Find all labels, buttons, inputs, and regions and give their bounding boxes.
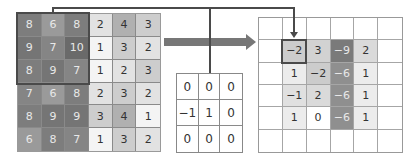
matrix-cell: −6 [331, 107, 355, 129]
matrix-cell: 1 [354, 63, 378, 85]
matrix-cell: 2 [354, 40, 378, 62]
right-arrow-icon [164, 38, 246, 46]
matrix-cell [259, 63, 283, 85]
matrix-cell: 1 [283, 63, 307, 85]
matrix-cell [259, 130, 283, 152]
matrix-cell: 2 [136, 83, 160, 106]
matrix-cell: 6 [42, 83, 66, 106]
matrix-cell [259, 18, 283, 40]
matrix-cell: 9 [65, 105, 89, 128]
matrix-cell: 7 [65, 128, 89, 151]
right-arrow-head-icon [246, 34, 256, 50]
matrix-cell: 2 [307, 85, 331, 107]
connector-down-to-kernel [209, 7, 211, 73]
down-arrow-icon [290, 32, 298, 38]
matrix-cell: 2 [136, 37, 160, 60]
matrix-cell: 1 [89, 128, 113, 151]
matrix-cell: 0 [199, 74, 221, 100]
matrix-cell: 0 [177, 126, 199, 152]
matrix-cell: 0 [220, 74, 242, 100]
matrix-cell [378, 40, 402, 62]
matrix-cell: 4 [113, 105, 137, 128]
matrix-cell: −9 [331, 40, 355, 62]
matrix-cell [378, 85, 402, 107]
matrix-cell: 3 [113, 37, 137, 60]
matrix-cell: 7 [18, 83, 42, 106]
matrix-cell: 0 [220, 126, 242, 152]
matrix-cell [378, 63, 402, 85]
matrix-cell: 9 [42, 105, 66, 128]
matrix-cell: 1 [89, 60, 113, 83]
matrix-cell [283, 130, 307, 152]
matrix-cell: 1 [199, 100, 221, 126]
matrix-cell: −6 [331, 85, 355, 107]
matrix-cell: 8 [18, 105, 42, 128]
matrix-cell: −2 [307, 63, 331, 85]
matrix-cell: 3 [113, 128, 137, 151]
matrix-cell [259, 107, 283, 129]
receptive-field-highlight [16, 12, 90, 85]
output-matrix: −23−921−2−61−12−6110−61 [258, 17, 403, 153]
matrix-cell: 2 [136, 128, 160, 151]
matrix-cell: 1 [136, 105, 160, 128]
matrix-cell [378, 18, 402, 40]
connector-top-horizontal [52, 7, 294, 9]
matrix-cell: 1 [89, 37, 113, 60]
matrix-cell: 0 [220, 100, 242, 126]
matrix-cell [259, 85, 283, 107]
matrix-cell: 0 [177, 74, 199, 100]
matrix-cell: 8 [42, 128, 66, 151]
output-cell-highlight [281, 39, 307, 64]
matrix-cell: 2 [89, 14, 113, 37]
connector-down-to-output [293, 7, 295, 33]
matrix-cell [331, 130, 355, 152]
matrix-cell: 3 [113, 83, 137, 106]
matrix-cell: 3 [89, 105, 113, 128]
matrix-cell: −6 [331, 63, 355, 85]
matrix-cell [354, 130, 378, 152]
matrix-cell [307, 18, 331, 40]
matrix-cell: 0 [307, 107, 331, 129]
matrix-cell: 2 [89, 83, 113, 106]
matrix-cell [378, 107, 402, 129]
matrix-cell: 1 [354, 107, 378, 129]
matrix-cell: 3 [307, 40, 331, 62]
matrix-cell: −1 [177, 100, 199, 126]
matrix-cell: 4 [113, 14, 137, 37]
matrix-cell: 2 [113, 60, 137, 83]
matrix-cell [378, 130, 402, 152]
matrix-cell [259, 40, 283, 62]
matrix-cell: 1 [354, 85, 378, 107]
matrix-cell: 6 [18, 128, 42, 151]
matrix-cell: 0 [199, 126, 221, 152]
matrix-cell [331, 18, 355, 40]
matrix-cell: 1 [283, 107, 307, 129]
matrix-cell [307, 130, 331, 152]
matrix-cell [354, 18, 378, 40]
matrix-cell: −1 [283, 85, 307, 107]
matrix-cell: 3 [136, 60, 160, 83]
matrix-cell: 8 [65, 83, 89, 106]
kernel-matrix: 000−110000 [176, 73, 243, 153]
matrix-cell: 3 [136, 14, 160, 37]
